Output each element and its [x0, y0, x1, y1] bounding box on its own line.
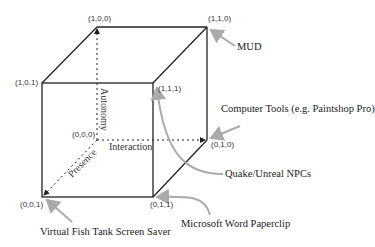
- quake-arrow: [157, 88, 223, 174]
- annotation-paperclip: Microsoft Word Paperclip: [181, 218, 290, 229]
- vertex-label-011: (0,1,1): [150, 200, 173, 209]
- mud-arrow: [211, 30, 235, 46]
- vertex-label-001: (0,0,1): [20, 200, 43, 209]
- vertex-label-111: (1,1,1): [158, 84, 181, 93]
- annotation-fish-tank: Virtual Fish Tank Screen Saver: [40, 226, 171, 237]
- autonomy-label: Autonomy: [99, 88, 110, 131]
- cube-edge: [153, 140, 207, 197]
- cube-edge: [42, 27, 97, 83]
- agent-cube-diagram: (1,0,0) (1,1,0) (1,0,1) (1,1,1) (0,0,0) …: [0, 0, 375, 247]
- vertex-label-101: (1,0,1): [15, 78, 38, 87]
- vertex-label-100: (1,0,0): [88, 14, 111, 23]
- cube-edge: [153, 27, 207, 83]
- vertex-label-110: (1,1,0): [208, 14, 231, 23]
- presence-label: Presence: [66, 146, 99, 179]
- annotation-quake: Quake/Unreal NPCs: [225, 168, 311, 179]
- annotation-computer-tools: Computer Tools (e.g. Paintshop Pro): [221, 103, 375, 115]
- fish-tank-arrow: [47, 200, 72, 222]
- interaction-label: Interaction: [109, 141, 152, 152]
- vertex-label-000: (0,0,0): [72, 130, 95, 139]
- computer-tools-arrow: [211, 126, 240, 138]
- annotation-mud: MUD: [237, 41, 262, 52]
- vertex-label-010: (0,1,0): [211, 140, 234, 149]
